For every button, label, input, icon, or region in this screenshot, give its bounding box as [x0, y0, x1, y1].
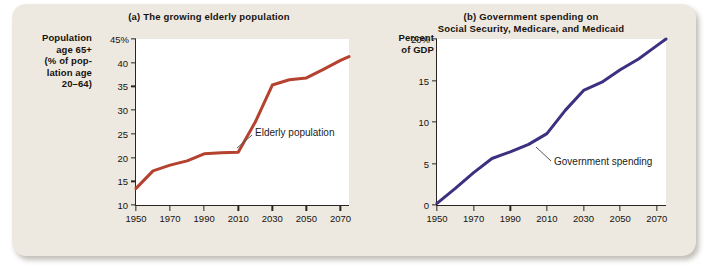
x-tick-label: 2070	[330, 213, 351, 224]
x-tick-mark	[620, 206, 621, 211]
x-tick-mark	[306, 206, 307, 211]
panel-b-plot-area: Government spending 05101520%19501970199…	[436, 39, 666, 206]
figure-card: (a) The growing elderly population Popul…	[12, 4, 696, 256]
panel-a-annotation-leader	[136, 39, 349, 205]
y-tick-mark	[131, 86, 136, 87]
x-tick-label: 1970	[160, 213, 181, 224]
x-tick-label: 2030	[262, 213, 283, 224]
chart-panel-a: (a) The growing elderly population Popul…	[12, 4, 364, 256]
x-tick-label: 1970	[463, 213, 484, 224]
y-tick-mark	[432, 80, 437, 81]
x-tick-mark	[546, 206, 547, 211]
y-tick-mark	[131, 181, 136, 182]
x-tick-label: 1950	[125, 213, 146, 224]
y-tick-label: 45%	[110, 34, 128, 45]
x-tick-mark	[656, 206, 657, 211]
x-tick-label: 1990	[500, 213, 521, 224]
x-tick-mark	[272, 206, 273, 211]
y-axis-title-line: 20–64)	[14, 78, 92, 90]
y-axis-title-line: lation age	[14, 67, 92, 79]
y-axis-title-line: age 65+	[14, 44, 92, 56]
y-tick-mark	[131, 157, 136, 158]
y-tick-label: 30	[110, 105, 128, 116]
x-tick-mark	[436, 206, 437, 211]
panel-a-title: (a) The growing elderly population	[64, 11, 354, 23]
panel-a-y-axis-title: Population age 65+ (% of pop- lation age…	[14, 32, 92, 90]
x-tick-label: 1990	[194, 213, 215, 224]
y-tick-label: 35	[110, 81, 128, 92]
x-tick-mark	[204, 206, 205, 211]
x-tick-mark	[510, 206, 511, 211]
x-tick-mark	[135, 206, 136, 211]
x-tick-label: 1950	[426, 213, 447, 224]
panel-b-title-line: (b) Government spending on	[376, 11, 686, 23]
x-tick-mark	[583, 206, 584, 211]
y-tick-label: 5	[411, 158, 429, 169]
y-tick-label: 15	[411, 75, 429, 86]
y-tick-label: 0	[411, 200, 429, 211]
x-tick-mark	[473, 206, 474, 211]
panel-a-annotation-label: Elderly population	[255, 127, 335, 138]
x-tick-mark	[340, 206, 341, 211]
y-tick-label: 20%	[411, 34, 429, 45]
y-tick-mark	[131, 62, 136, 63]
panel-a-plot-area: Elderly population 1015202530354045%1950…	[135, 39, 349, 206]
x-tick-mark	[169, 206, 170, 211]
y-tick-mark	[432, 38, 437, 39]
y-tick-label: 20	[110, 152, 128, 163]
x-tick-label: 2070	[646, 213, 667, 224]
y-tick-mark	[432, 163, 437, 164]
x-tick-mark	[238, 206, 239, 211]
y-tick-mark	[131, 38, 136, 39]
y-tick-label: 15	[110, 176, 128, 187]
y-tick-label: 25	[110, 128, 128, 139]
y-tick-label: 10	[110, 200, 128, 211]
y-tick-mark	[432, 121, 437, 122]
y-tick-mark	[131, 109, 136, 110]
x-tick-label: 2050	[610, 213, 631, 224]
x-tick-label: 2010	[536, 213, 557, 224]
x-tick-label: 2030	[573, 213, 594, 224]
x-tick-label: 2010	[228, 213, 249, 224]
y-tick-label: 40	[110, 57, 128, 68]
chart-panel-b: (b) Government spending on Social Securi…	[364, 4, 696, 256]
y-axis-title-line: Population	[14, 32, 92, 44]
y-tick-label: 10	[411, 117, 429, 128]
panel-b-annotation-leader	[437, 39, 666, 205]
panel-b-annotation-label: Government spending	[554, 156, 652, 167]
y-axis-title-line: (% of pop-	[14, 55, 92, 67]
x-tick-label: 2050	[296, 213, 317, 224]
y-tick-mark	[131, 133, 136, 134]
y-axis-title-line: of GDP	[372, 44, 434, 56]
